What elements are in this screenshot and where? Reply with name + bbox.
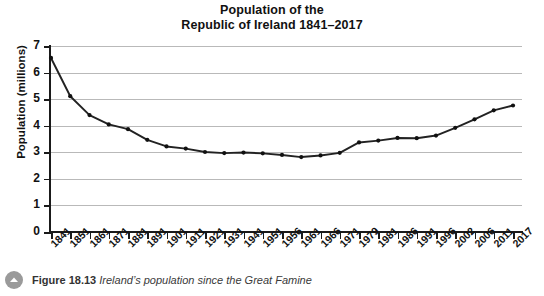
figure-caption: Figure 18.13 Ireland’s population since … <box>0 268 544 292</box>
data-point-marker <box>472 117 476 121</box>
figure-caption-text: Figure 18.13 Ireland’s population since … <box>32 274 312 286</box>
data-point-marker <box>87 113 91 117</box>
figure-description: Ireland’s population since the Great Fam… <box>99 274 312 286</box>
data-point-marker <box>395 136 399 140</box>
data-point-marker <box>280 153 284 157</box>
data-point-marker <box>434 133 438 137</box>
data-point-marker <box>299 155 303 159</box>
data-point-marker <box>415 136 419 140</box>
data-point-marker <box>453 126 457 130</box>
figure-population-of-ireland: Population of the Republic of Ireland 18… <box>0 0 544 296</box>
data-series-layer <box>0 0 544 296</box>
data-point-marker <box>261 151 265 155</box>
data-point-marker <box>338 151 342 155</box>
data-point-marker <box>164 144 168 148</box>
data-point-marker <box>492 108 496 112</box>
figure-number: Figure 18.13 <box>32 274 96 286</box>
data-point-marker <box>241 150 245 154</box>
population-markers <box>49 56 515 159</box>
population-line <box>51 58 513 157</box>
data-point-marker <box>357 140 361 144</box>
chevron-up-circle-icon <box>5 271 23 289</box>
data-point-marker <box>107 122 111 126</box>
data-point-marker <box>222 151 226 155</box>
data-point-marker <box>203 150 207 154</box>
data-point-marker <box>376 138 380 142</box>
data-point-marker <box>126 127 130 131</box>
data-point-marker <box>145 138 149 142</box>
data-point-marker <box>49 56 53 60</box>
data-point-marker <box>68 94 72 98</box>
data-point-marker <box>184 146 188 150</box>
data-point-marker <box>318 153 322 157</box>
data-point-marker <box>511 103 515 107</box>
